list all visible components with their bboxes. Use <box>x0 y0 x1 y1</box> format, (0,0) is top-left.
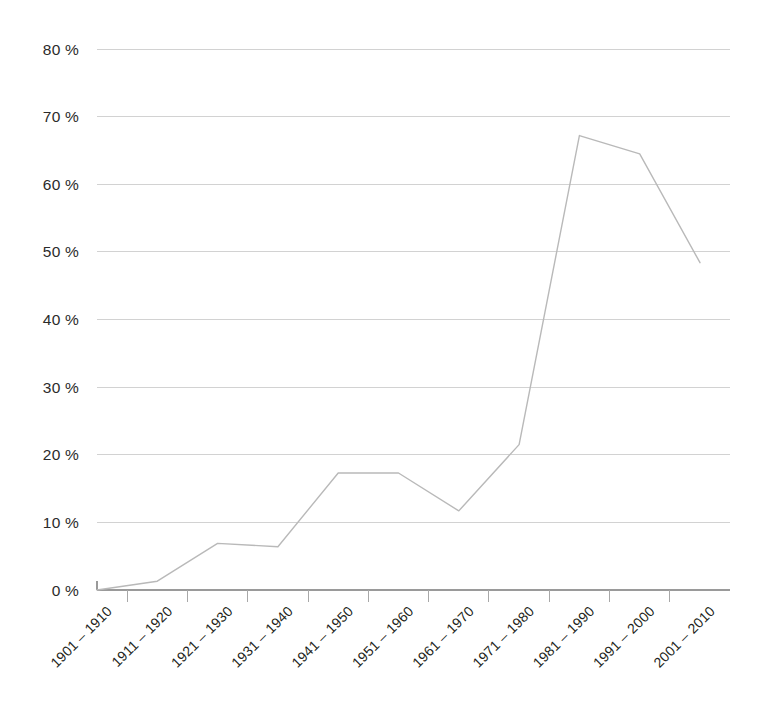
x-axis-tick-label: 1971 – 1980 <box>469 603 537 671</box>
line-chart: 80 %70 %60 %50 %40 %30 %20 %10 %0 % 1901… <box>0 0 759 716</box>
chart-canvas: 80 %70 %60 %50 %40 %30 %20 %10 %0 % 1901… <box>0 0 759 716</box>
y-axis-tick-label: 80 % <box>43 41 79 58</box>
y-axis-tick-label: 0 % <box>52 582 79 599</box>
x-axis-tick-label: 1981 – 1990 <box>530 603 598 671</box>
y-axis-tick-label: 10 % <box>43 514 79 531</box>
y-axis-tick-label: 40 % <box>43 311 79 328</box>
x-axis-tick-labels: 1901 – 19101911 – 19201921 – 19301931 – … <box>47 603 718 671</box>
x-axis-tick-label: 1901 – 1910 <box>47 603 115 671</box>
x-axis-tick-label: 1921 – 1930 <box>168 603 236 671</box>
y-axis-tick-label: 70 % <box>43 108 79 125</box>
data-series <box>97 136 700 590</box>
gridlines <box>97 49 730 522</box>
y-axis-tick-label: 50 % <box>43 243 79 260</box>
x-axis-tick-label: 1941 – 1950 <box>288 603 356 671</box>
x-axis <box>97 581 730 590</box>
x-axis-tickmarks <box>127 590 670 602</box>
x-axis-tick-label: 1951 – 1960 <box>349 603 417 671</box>
x-axis-tick-label: 1911 – 1920 <box>108 603 175 670</box>
x-axis-tick-label: 1931 – 1940 <box>228 603 296 671</box>
y-axis-tick-label: 30 % <box>43 379 79 396</box>
y-axis-tick-label: 20 % <box>43 446 79 463</box>
x-axis-tick-label: 1991 – 2000 <box>590 603 658 671</box>
x-axis-tick-label: 1961 – 1970 <box>409 603 477 671</box>
y-axis-tick-label: 60 % <box>43 176 79 193</box>
y-axis-tick-labels: 80 %70 %60 %50 %40 %30 %20 %10 %0 % <box>43 41 79 599</box>
x-axis-tick-label: 2001 – 2010 <box>650 603 718 671</box>
series-line-share <box>97 136 700 590</box>
